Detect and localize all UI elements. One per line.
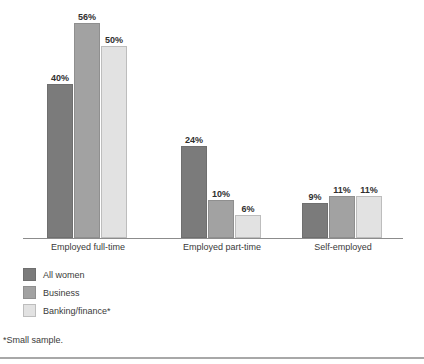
bar-banking-finance-employed-full-time[interactable]: 50% (101, 46, 127, 238)
legend-item-banking-finance[interactable]: Banking/finance* (23, 302, 243, 319)
bar-group-employed-part-time: 24% 10% 6% (181, 0, 263, 238)
plot-area: 40% 56% 50% Employed full-time 24% 10% 6… (0, 0, 424, 240)
bar-all-women-employed-full-time[interactable]: 40% (47, 84, 73, 238)
legend-item-business[interactable]: Business (23, 284, 243, 301)
bar-value-label: 10% (212, 189, 230, 199)
footnote-small-sample: *Small sample. (3, 335, 63, 345)
bar-business-self-employed[interactable]: 11% (329, 196, 355, 238)
bottom-divider (0, 357, 424, 359)
legend-swatch-icon (23, 268, 36, 281)
bar-value-label: 9% (308, 192, 321, 202)
x-axis-line (23, 238, 403, 239)
bar-value-label: 40% (51, 73, 69, 83)
bar-value-label: 11% (360, 185, 378, 195)
chart-legend: All women Business Banking/finance* (23, 266, 243, 320)
bar-chart: 40% 56% 50% Employed full-time 24% 10% 6… (0, 0, 424, 364)
bar-group-self-employed: 9% 11% 11% (302, 0, 384, 238)
category-label-employed-full-time: Employed full-time (27, 242, 149, 252)
legend-item-label: Business (43, 288, 80, 298)
bar-value-label: 24% (185, 135, 203, 145)
bar-banking-finance-self-employed[interactable]: 11% (356, 196, 382, 238)
bar-group-employed-full-time: 40% 56% 50% (47, 0, 129, 238)
bar-value-label: 50% (105, 35, 123, 45)
legend-swatch-icon (23, 304, 36, 317)
bar-banking-finance-employed-part-time[interactable]: 6% (235, 215, 261, 238)
legend-item-label: All women (43, 270, 85, 280)
legend-item-all-women[interactable]: All women (23, 266, 243, 283)
bar-value-label: 11% (333, 185, 351, 195)
bar-value-label: 56% (78, 12, 96, 22)
bar-business-employed-full-time[interactable]: 56% (74, 23, 100, 238)
category-label-employed-part-time: Employed part-time (161, 242, 283, 252)
legend-swatch-icon (23, 286, 36, 299)
bar-all-women-employed-part-time[interactable]: 24% (181, 146, 207, 238)
bar-business-employed-part-time[interactable]: 10% (208, 200, 234, 238)
bar-all-women-self-employed[interactable]: 9% (302, 203, 328, 238)
bar-value-label: 6% (241, 204, 254, 214)
category-label-self-employed: Self-employed (282, 242, 404, 252)
legend-item-label: Banking/finance* (43, 306, 111, 316)
